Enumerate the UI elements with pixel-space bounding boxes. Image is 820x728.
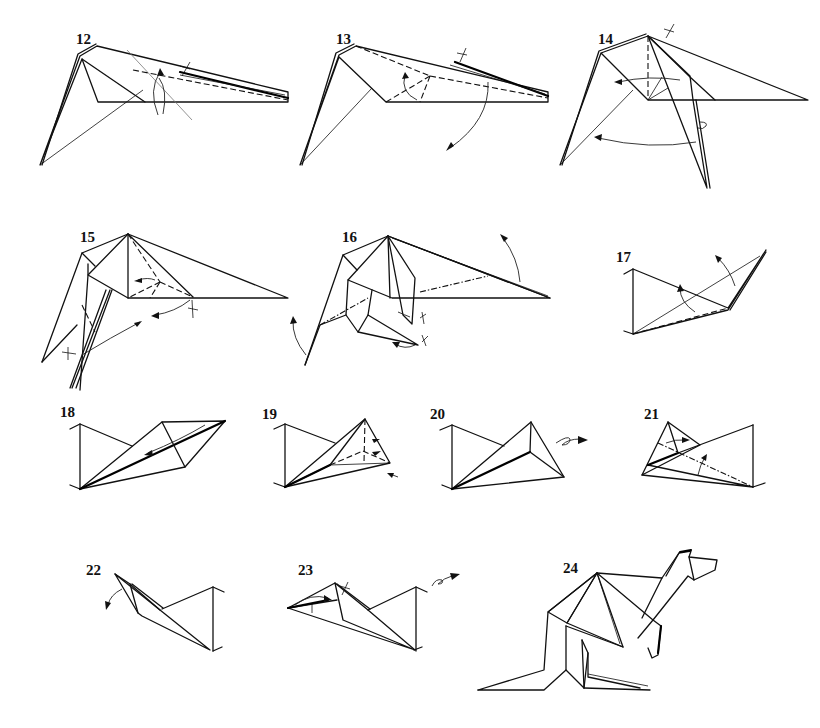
step-14: 14	[550, 20, 820, 200]
step-23: 23	[280, 550, 480, 660]
step-22: 22	[70, 550, 240, 660]
step-13: 13	[290, 20, 560, 180]
step-16: 16	[280, 220, 570, 400]
step-14-diagram	[550, 20, 820, 200]
step-18-diagram	[50, 395, 240, 495]
step-21: 21	[620, 395, 810, 495]
step-13-diagram	[290, 20, 560, 180]
step-19-diagram	[250, 395, 410, 495]
step-22-diagram	[70, 550, 240, 660]
step-24-kangaroo-diagram	[470, 540, 730, 700]
step-21-diagram	[620, 395, 810, 495]
step-18: 18	[50, 395, 240, 495]
step-20: 20	[420, 395, 600, 495]
step-15-diagram	[30, 220, 300, 400]
step-12: 12	[30, 20, 300, 180]
step-16-diagram	[280, 220, 570, 400]
step-15: 15	[30, 220, 300, 400]
step-23-diagram	[280, 550, 480, 660]
step-12-diagram	[30, 20, 300, 180]
step-17-diagram	[600, 240, 800, 350]
step-20-diagram	[420, 395, 600, 495]
step-17: 17	[600, 240, 800, 350]
step-19: 19	[250, 395, 410, 495]
step-24: 24	[470, 540, 730, 700]
